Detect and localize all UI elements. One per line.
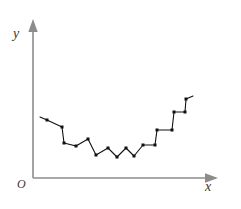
- series-polyline: [47, 99, 186, 157]
- data-point-marker: [171, 129, 174, 132]
- data-point-marker: [87, 138, 90, 141]
- coordinate-plot-figure: y x O: [0, 0, 241, 209]
- data-series: [46, 98, 188, 159]
- data-point-marker: [125, 147, 128, 150]
- series-markers: [46, 98, 188, 159]
- data-point-marker: [133, 155, 136, 158]
- x-axis: [33, 173, 218, 182]
- data-point-marker: [142, 144, 145, 147]
- data-point-marker: [116, 156, 119, 159]
- origin-label: O: [17, 178, 26, 190]
- y-axis-arrowhead: [28, 19, 37, 32]
- y-axis-label: y: [13, 27, 19, 41]
- data-point-marker: [184, 111, 187, 114]
- plot-canvas: [0, 0, 241, 209]
- data-point-marker: [156, 129, 159, 132]
- data-point-marker: [61, 126, 64, 129]
- data-point-marker: [173, 111, 176, 114]
- data-point-marker: [63, 142, 66, 145]
- data-point-marker: [107, 147, 110, 150]
- data-point-marker: [75, 145, 78, 148]
- data-point-marker: [95, 154, 98, 157]
- x-axis-label: x: [205, 180, 211, 194]
- data-point-marker: [154, 144, 157, 147]
- y-axis: [28, 19, 37, 178]
